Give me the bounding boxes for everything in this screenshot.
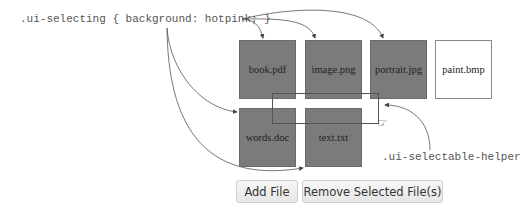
file-item-paint[interactable]: paint.bmp — [435, 40, 492, 99]
file-item-image[interactable]: image.png — [305, 40, 362, 99]
selecting-css-annotation: .ui-selecting { background: hotpink; } — [20, 13, 271, 25]
hand-pointer-icon: ☞ — [377, 117, 388, 129]
file-name: text.txt — [319, 132, 348, 143]
file-name: book.pdf — [249, 64, 287, 75]
add-file-button[interactable]: Add File — [236, 180, 298, 203]
file-name: words.doc — [246, 132, 289, 143]
file-name: image.png — [311, 64, 355, 75]
file-item-portrait[interactable]: portrait.jpg — [370, 40, 427, 99]
file-name: paint.bmp — [442, 64, 484, 75]
file-name: portrait.jpg — [375, 64, 422, 75]
helper-class-annotation: .ui-selectable-helper — [382, 151, 521, 163]
remove-selected-button[interactable]: Remove Selected File(s) — [302, 180, 443, 203]
file-item-words[interactable]: words.doc — [239, 108, 296, 167]
file-item-book[interactable]: book.pdf — [239, 40, 296, 99]
file-item-text[interactable]: text.txt — [305, 108, 362, 167]
